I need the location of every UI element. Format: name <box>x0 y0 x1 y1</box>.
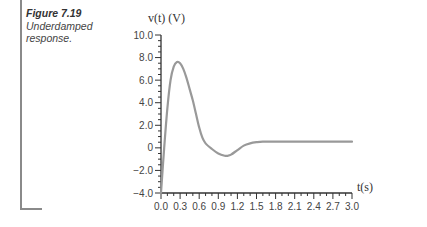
x-tick-label: 1.5 <box>250 201 264 212</box>
response-curve <box>161 62 352 193</box>
y-axis-title: v(t) (V) <box>148 11 185 25</box>
y-tick-label: 2.0 <box>139 120 153 131</box>
x-tick-label: 0.9 <box>211 201 225 212</box>
line-chart: 10.08.06.04.02.00−2.0−4.00.00.30.60.91.2… <box>0 0 427 227</box>
y-tick-label: 10.0 <box>134 30 154 41</box>
x-tick-label: 0.3 <box>173 201 187 212</box>
x-tick-label: 1.8 <box>269 201 283 212</box>
x-tick-label: 3.0 <box>345 201 359 212</box>
x-tick-label: 2.1 <box>288 201 302 212</box>
y-tick-label: 0 <box>147 142 153 153</box>
y-tick-label: 6.0 <box>139 75 153 86</box>
x-tick-label: 1.2 <box>230 201 244 212</box>
x-axis-title: t(s) <box>357 180 373 194</box>
y-tick-label: 8.0 <box>139 52 153 63</box>
y-tick-label: 4.0 <box>139 97 153 108</box>
x-tick-label: 2.4 <box>307 201 321 212</box>
y-tick-label: −2.0 <box>133 165 153 176</box>
x-tick-label: 0.0 <box>154 201 168 212</box>
y-tick-label: −4.0 <box>133 188 153 199</box>
x-tick-label: 2.7 <box>326 201 340 212</box>
x-tick-label: 0.6 <box>192 201 206 212</box>
